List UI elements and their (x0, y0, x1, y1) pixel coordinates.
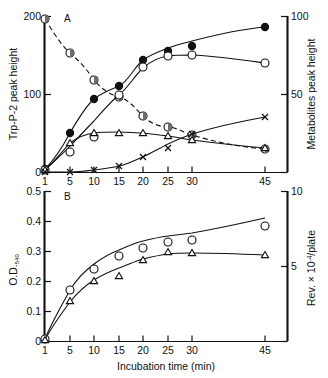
panel-b-ylabel: O.D.540 (7, 254, 20, 286)
panel-a-xtick-labels: 1 5 10 15 20 25 30 45 (42, 175, 271, 187)
panel-a: 200 100 0 100 50 1 5 10 15 20 25 30 45 T… (7, 10, 317, 187)
panel-b-xtick-labels: 1 5 10 15 20 25 30 45 (42, 344, 271, 356)
panel-a-xtick-1: 1 (42, 175, 48, 187)
panel-b-xtick-45: 45 (259, 344, 271, 356)
panel-b-ytick-05: 0.5 (26, 185, 41, 197)
panel-a-xtick-20: 20 (137, 175, 149, 187)
panel-b-y2tick-5: 5 (291, 260, 297, 272)
series-metabolite-2-line (45, 55, 265, 170)
panel-a-ylabel: Trp-P-2 peak height (7, 48, 19, 140)
series-od-line (45, 218, 265, 339)
panel-a-xtick-5: 5 (67, 175, 73, 187)
panel-b-xtick-15: 15 (113, 344, 125, 356)
series-metabolite-1-line (45, 27, 265, 169)
panel-b-xtick-20: 20 (137, 344, 149, 356)
panel-b-ytick-01: 0.1 (26, 305, 41, 317)
panel-b-xtick-10: 10 (88, 344, 100, 356)
series-metabolite-2-markers (41, 51, 269, 174)
series-trp-p2-markers (41, 15, 269, 153)
panel-a-ytick-0: 0 (35, 166, 41, 178)
panel-b-label: B (64, 191, 71, 202)
panel-a-xtick-25: 25 (162, 175, 174, 187)
series-revertants-line (45, 253, 265, 340)
panel-b-xtick-25: 25 (162, 344, 174, 356)
panel-b-xtick-1: 1 (42, 344, 48, 356)
panel-a-xtick-30: 30 (186, 175, 198, 187)
panel-b-xlabel: Incubation time (min) (117, 360, 215, 372)
panel-a-xtick-15: 15 (113, 175, 125, 187)
panel-a-y2tick-50: 50 (291, 88, 303, 100)
panel-b-xtick-30: 30 (186, 344, 198, 356)
panel-b-y2tick-10: 10 (291, 185, 303, 197)
figure-svg: 200 100 0 100 50 1 5 10 15 20 25 30 45 T… (0, 0, 328, 378)
panel-b-ytick-04: 0.4 (26, 215, 41, 227)
panel-a-y2label: Metabolites peak height (305, 38, 317, 149)
panel-b-y2label: Rev. × 10-4/plate (305, 230, 317, 306)
panel-a-label: A (64, 13, 71, 24)
panel-a-xtick-45: 45 (259, 175, 271, 187)
panel-a-y2tick-100: 100 (291, 10, 309, 22)
panel-a-ytick-200: 200 (23, 10, 41, 22)
panel-b: 0.5 0.4 0.3 0.2 0.1 0 10 5 1 5 10 15 20 … (7, 185, 317, 372)
panel-a-ytick-100: 100 (23, 88, 41, 100)
panel-a-xtick-10: 10 (88, 175, 100, 187)
panel-b-ytick-03: 0.3 (26, 245, 41, 257)
panel-b-xtick-5: 5 (67, 344, 73, 356)
series-trp-p2-line (45, 19, 265, 149)
panel-b-x-ticks (45, 336, 265, 342)
figure-container: 200 100 0 100 50 1 5 10 15 20 25 30 45 T… (0, 0, 328, 378)
panel-b-ytick-02: 0.2 (26, 275, 41, 287)
panel-b-ytick-0: 0 (35, 335, 41, 347)
